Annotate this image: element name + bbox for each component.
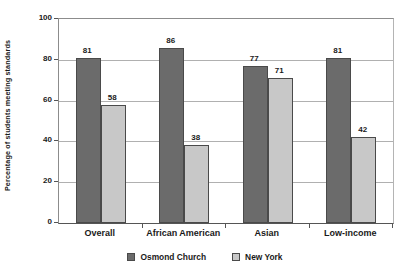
bar-african-american-new-york: [184, 145, 209, 223]
bar-value-label: 77: [242, 54, 267, 63]
bar-asian-osmond-church: [243, 66, 268, 223]
x-category-label-african-american: African American: [142, 228, 226, 238]
bar-value-label: 81: [325, 46, 350, 55]
y-axis-title-text: Percentage of students meeting standards: [4, 39, 13, 190]
y-axis-title: Percentage of students meeting standards: [0, 0, 16, 230]
legend-item-new-york[interactable]: New York: [232, 252, 282, 262]
y-tick-label-80: 80: [18, 54, 52, 63]
bar-asian-new-york: [268, 78, 293, 223]
bar-chart-figure: Percentage of students meeting standards…: [0, 0, 410, 276]
x-category-label-asian: Asian: [225, 228, 309, 238]
y-tick-label-100: 100: [18, 13, 52, 22]
legend-label: New York: [245, 252, 282, 262]
legend-label: Osmond Church: [140, 252, 206, 262]
x-category-label-low-income: Low-income: [309, 228, 393, 238]
chart-legend: Osmond ChurchNew York: [0, 252, 410, 262]
bar-value-label: 38: [183, 133, 208, 142]
bar-value-label: 86: [158, 36, 183, 45]
y-tick-label-60: 60: [18, 95, 52, 104]
x-category-label-overall: Overall: [58, 228, 142, 238]
y-tick-label-20: 20: [18, 176, 52, 185]
legend-item-osmond-church[interactable]: Osmond Church: [127, 252, 206, 262]
bar-value-label: 71: [267, 66, 292, 75]
bar-value-label: 81: [75, 46, 100, 55]
legend-swatch-new-york-icon: [232, 253, 240, 261]
bar-value-label: 42: [350, 125, 375, 134]
x-tick-mark: [392, 223, 393, 228]
bar-overall-osmond-church: [76, 58, 101, 223]
bar-low-income-new-york: [351, 137, 376, 223]
legend-swatch-osmond-church-icon: [127, 253, 135, 261]
bar-african-american-osmond-church: [159, 48, 184, 223]
bar-low-income-osmond-church: [326, 58, 351, 223]
y-tick-label-40: 40: [18, 135, 52, 144]
y-tick-label-0: 0: [18, 217, 52, 226]
bar-overall-new-york: [101, 105, 126, 223]
bar-value-label: 58: [100, 93, 125, 102]
